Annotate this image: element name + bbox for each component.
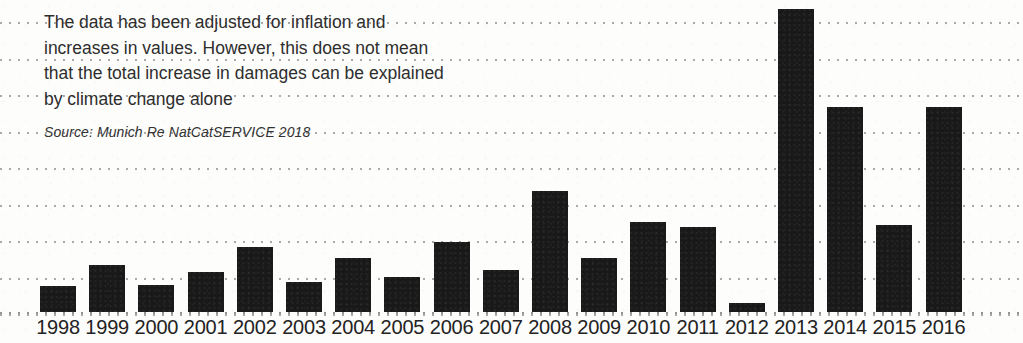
x-axis-label-2012: 2012 [723,314,771,341]
bar-2002 [237,247,273,312]
bar-2012 [729,303,765,312]
annotation-line-3: that the total increase in damages can b… [44,61,494,87]
bar-2013 [778,9,814,312]
bar-2010 [630,222,666,312]
x-axis-label-2015: 2015 [870,314,918,341]
bar-2004 [335,258,371,312]
x-axis-label-2013: 2013 [772,314,820,341]
x-axis-label-2003: 2003 [280,314,328,341]
x-axis-label-2010: 2010 [624,314,672,341]
x-axis-label-2000: 2000 [132,314,180,341]
x-axis-label-2006: 2006 [428,314,476,341]
annotation-line-4: by climate change alone [44,87,494,113]
x-axis-label-2009: 2009 [575,314,623,341]
bar-2008 [532,191,568,312]
x-axis-label-2011: 2011 [674,314,722,341]
bar-2007 [483,270,519,312]
x-axis-label-2005: 2005 [378,314,426,341]
x-axis-label-2016: 2016 [920,314,968,341]
bar-2001 [188,272,224,312]
bar-2006 [434,242,470,312]
x-axis-label-1999: 1999 [83,314,131,341]
bar-2015 [876,225,912,312]
x-axis-label-2004: 2004 [329,314,377,341]
bar-2011 [680,227,716,312]
bar-2003 [286,282,322,312]
bar-2000 [138,285,174,312]
x-axis-label-2014: 2014 [821,314,869,341]
chart-container: 1998199920002001200220032004200520062007… [0,0,1023,343]
bar-1998 [40,286,76,312]
bar-2016 [926,107,962,312]
bar-2009 [581,258,617,312]
x-axis-label-2001: 2001 [182,314,230,341]
bar-2014 [827,107,863,312]
x-axis-label-2002: 2002 [231,314,279,341]
source-caption: Source: Munich Re NatCatSERVICE 2018 [44,124,494,140]
bar-1999 [89,265,125,312]
annotation-line-2: increases in values. However, this does … [44,36,494,62]
annotation-block: The data has been adjusted for inflation… [44,10,494,140]
x-axis: 1998199920002001200220032004200520062007… [0,314,1023,343]
x-axis-label-2008: 2008 [526,314,574,341]
x-axis-label-1998: 1998 [34,314,82,341]
bar-2005 [384,277,420,312]
x-axis-label-2007: 2007 [477,314,525,341]
annotation-line-1: The data has been adjusted for inflation… [44,10,494,36]
